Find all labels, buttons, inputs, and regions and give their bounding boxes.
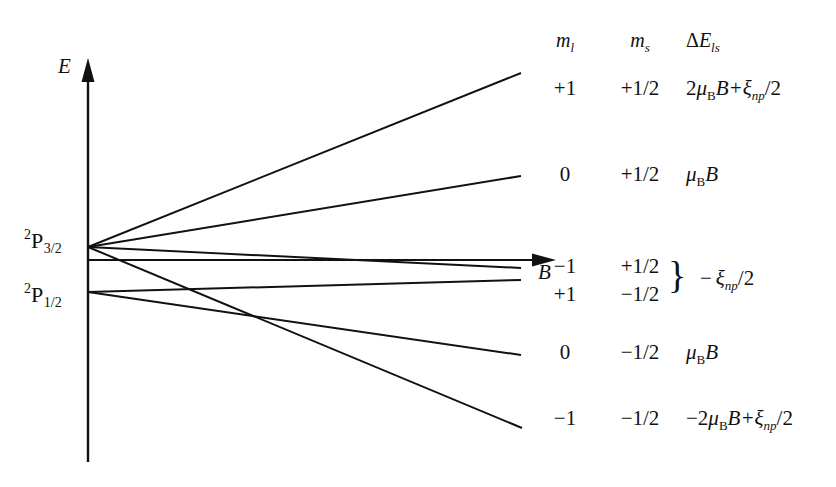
row-6-energy-prefix: −2 (686, 406, 708, 430)
row-5-energy-mid: B (705, 340, 718, 364)
row-6-ml: −1 (536, 408, 594, 429)
row-1-ml: +1 (536, 78, 594, 99)
row-4-ml: +1 (536, 284, 594, 305)
row-3-ms: +1/2 (604, 256, 676, 277)
row-1-energy-mu: μ (697, 76, 708, 100)
header-ms-base: m (630, 29, 644, 51)
header-de-delta: Δ (686, 29, 699, 51)
row-1-energy-xi-sub: np (752, 88, 765, 103)
row-6-energy-suffix: /2 (777, 406, 793, 430)
row-6-energy-mu: μ (708, 406, 719, 430)
row-6-ms: −1/2 (604, 408, 676, 429)
row-6-energy: −2μBB+ξnp/2 (686, 408, 793, 432)
line-ml0-ms+1/2 (88, 176, 521, 247)
header-ml-base: m (556, 29, 570, 51)
header-ms-sub: s (645, 40, 650, 55)
level-p32-letter: P (31, 228, 43, 253)
level-p12-multiplicity: 2 (24, 281, 31, 296)
header-ml-sub: l (570, 40, 574, 55)
row-pair-brace: } (668, 256, 686, 294)
row-5-energy-mu: μ (686, 340, 697, 364)
level-p32-j: 3/2 (43, 241, 61, 256)
level-label-p32: 2P3/2 (24, 228, 62, 256)
row-2-energy: μBB (686, 164, 718, 188)
row-2-energy-mid: B (705, 162, 718, 186)
row-1-energy: 2μBB+ξnp/2 (686, 78, 781, 102)
header-de-base: E (699, 29, 711, 51)
level-p12-letter: P (31, 282, 43, 307)
row-2-energy-mu: μ (686, 162, 697, 186)
header-de-sub: ls (711, 40, 720, 55)
row-1-energy-prefix: 2 (686, 76, 697, 100)
field-axis (88, 254, 556, 267)
row-6-energy-mu-sub: B (719, 418, 728, 433)
row-1-ms: +1/2 (604, 78, 676, 99)
row-6-energy-mid: B+ (728, 406, 755, 430)
column-header-delta-e-ls: ΔEls (686, 30, 720, 54)
row-2-ms: +1/2 (604, 164, 676, 185)
row-6-energy-xi-sub: np (764, 418, 777, 433)
row-2-ml: 0 (536, 164, 594, 185)
row-pair-energy-xi: ξ (716, 266, 725, 290)
row-5-energy: μBB (686, 342, 718, 366)
column-header-ms: ms (604, 30, 676, 54)
line-ml-1-ms-1/2 (88, 247, 522, 428)
row-5-energy-mu-sub: B (697, 352, 706, 367)
row-1-energy-mid: B+ (716, 76, 743, 100)
line-ml0-ms-1/2 (88, 292, 521, 355)
row-3-ml: −1 (536, 256, 594, 277)
row-pair-energy: −ξnp/2 (700, 268, 754, 292)
row-1-energy-mu-sub: B (707, 88, 716, 103)
row-6-energy-xi: ξ (755, 406, 764, 430)
row-1-energy-xi: ξ (743, 76, 752, 100)
line-ml+1-ms+1/2 (88, 73, 521, 247)
level-label-p12: 2P1/2 (24, 282, 62, 310)
row-2-energy-mu-sub: B (697, 174, 706, 189)
row-pair-energy-suffix: /2 (738, 266, 754, 290)
line-ml-1-ms+1/2 (88, 247, 521, 268)
row-1-energy-suffix: /2 (765, 76, 781, 100)
zeeman-splitting-diagram: E B 2P3/2 2P1/2 ml ms ΔEls +1 +1/2 2μBB+… (0, 0, 836, 487)
row-pair-energy-minus: − (700, 266, 712, 290)
row-5-ml: 0 (536, 342, 594, 363)
level-lines-p32 (88, 73, 522, 428)
level-lines-p12 (88, 280, 521, 355)
column-header-ml: ml (536, 30, 594, 54)
energy-axis-label: E (58, 56, 71, 77)
row-4-ms: −1/2 (604, 284, 676, 305)
line-ml+1-ms-1/2 (88, 280, 521, 292)
row-5-ms: −1/2 (604, 342, 676, 363)
level-p32-multiplicity: 2 (24, 227, 31, 242)
row-pair-energy-xi-sub: np (725, 278, 738, 293)
level-p12-j: 1/2 (43, 295, 61, 310)
